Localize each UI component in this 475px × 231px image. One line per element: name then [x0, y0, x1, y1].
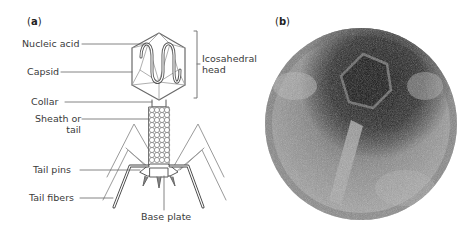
electron-micrograph [265, 28, 457, 220]
label-collar: Collar [31, 96, 58, 107]
head-bracket [194, 31, 197, 98]
collar-shape [152, 100, 166, 107]
label-capsid: Capsid [27, 66, 59, 77]
label-tail-pins: Tail pins [33, 164, 71, 175]
label-icosahedral-head: Icosahedral head [202, 53, 257, 75]
label-sheath: Sheath or tail [35, 113, 81, 135]
label-tail-fibers: Tail fibers [29, 192, 74, 203]
label-base-plate: Base plate [141, 211, 191, 222]
label-nucleic-acid: Nucleic acid [22, 38, 79, 49]
